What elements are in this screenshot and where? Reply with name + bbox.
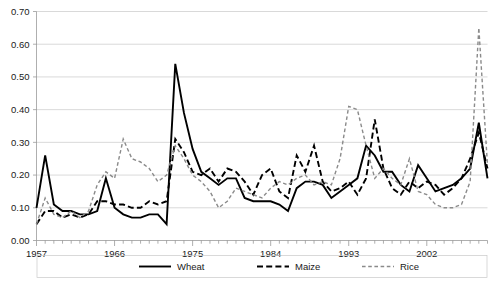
y-axis-labels: 0.000.100.200.300.400.500.600.70: [11, 6, 30, 246]
y-axis-tick-label: 0.30: [11, 137, 30, 148]
chart-legend: WheatMaizeRice: [37, 256, 487, 278]
data-series: [37, 28, 488, 224]
legend-label-maize: Maize: [295, 261, 320, 272]
x-axis-tick-label: 2002: [416, 248, 437, 259]
series-line-maize: [37, 119, 488, 224]
chart-container: 0.000.100.200.300.400.500.600.70 1957196…: [0, 0, 495, 282]
y-axis-tick-label: 0.20: [11, 169, 30, 180]
y-axis-tick-label: 0.60: [11, 39, 30, 50]
x-axis-tick-label: 1975: [182, 248, 203, 259]
x-axis-tick-label: 1984: [260, 248, 281, 259]
x-axis-tickmarks: [37, 241, 488, 247]
series-line-rice: [37, 28, 488, 224]
gridlines: [37, 12, 488, 241]
y-axis-tick-label: 0.70: [11, 6, 30, 17]
legend-label-rice: Rice: [400, 261, 419, 272]
x-axis-tick-label: 1957: [26, 248, 47, 259]
legend-label-wheat: Wheat: [177, 261, 205, 272]
y-axis-tick-label: 0.40: [11, 104, 30, 115]
y-axis-tick-label: 0.50: [11, 71, 30, 82]
x-axis-tick-label: 1966: [104, 248, 125, 259]
series-line-wheat: [37, 64, 488, 224]
x-axis-labels: 195719661975198419932002: [26, 248, 437, 259]
y-axis-tick-label: 0.00: [11, 235, 30, 246]
y-axis-tick-label: 0.10: [11, 202, 30, 213]
line-chart: 0.000.100.200.300.400.500.600.70 1957196…: [0, 0, 495, 282]
x-axis-tick-label: 1993: [338, 248, 359, 259]
